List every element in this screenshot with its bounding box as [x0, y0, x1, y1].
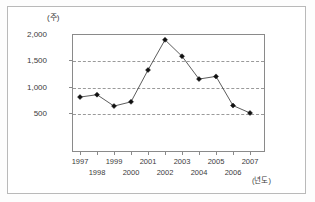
x-tick-label-2004: 2004 — [191, 168, 208, 177]
x-tick-mark-2006 — [233, 152, 234, 155]
x-tick-mark-2004 — [199, 152, 200, 155]
x-tick-label-2000: 2000 — [123, 168, 140, 177]
chart-figure: (주) 2,000 1,500 1,000 500 1997 1999 2001… — [0, 0, 315, 202]
x-tick-mark-2001 — [148, 152, 149, 155]
x-tick-mark-2005 — [216, 152, 217, 155]
x-tick-label-1998: 1998 — [89, 168, 106, 177]
x-tick-mark-2007 — [250, 152, 251, 155]
x-tick-label-2007: 2007 — [242, 157, 259, 166]
x-tick-label-2005: 2005 — [208, 157, 225, 166]
gridline-1000 — [73, 88, 264, 89]
y-tick-label-1500: 1,500 — [7, 56, 47, 65]
x-tick-label-2006: 2006 — [225, 168, 242, 177]
y-axis-unit-label: (주) — [47, 11, 59, 22]
gridline-500 — [73, 114, 264, 115]
x-tick-label-2003: 2003 — [174, 157, 191, 166]
x-axis-unit-label: (년도) — [252, 174, 271, 185]
plot-area — [72, 34, 265, 152]
gridline-1500 — [73, 61, 264, 62]
y-tick-label-2000: 2,000 — [7, 30, 47, 39]
y-tick-label-1000: 1,000 — [7, 83, 47, 92]
x-tick-label-1997: 1997 — [72, 157, 89, 166]
x-tick-label-2001: 2001 — [140, 157, 157, 166]
x-tick-mark-2000 — [131, 152, 132, 155]
x-tick-mark-1999 — [114, 152, 115, 155]
x-tick-mark-2003 — [182, 152, 183, 155]
x-tick-mark-2002 — [165, 152, 166, 155]
x-tick-label-2002: 2002 — [157, 168, 174, 177]
x-tick-label-1999: 1999 — [106, 157, 123, 166]
y-tick-label-500: 500 — [7, 109, 47, 118]
x-tick-mark-1998 — [97, 152, 98, 155]
x-tick-mark-1997 — [80, 152, 81, 155]
